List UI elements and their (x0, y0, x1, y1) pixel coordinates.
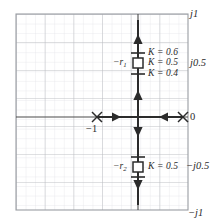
root-label-r2-sub: 2 (123, 165, 127, 172)
root-label-r1-sub: 1 (123, 61, 127, 68)
root-label-r2: −r2 (113, 162, 127, 172)
real-axis-label-minus-one: −1 (86, 124, 97, 135)
root-marker-r2 (133, 162, 143, 172)
root-label-r1: −r1 (113, 58, 127, 68)
gain-label-upper-0p5: K = 0.5 (148, 58, 178, 68)
root-label-r1-name: −r (113, 57, 123, 67)
imag-axis-label-j1: j1 (190, 9, 198, 20)
root-label-r2-name: −r (113, 161, 123, 171)
imag-axis-label-neg-j0p5: −j0.5 (186, 161, 209, 172)
gain-label-upper-0p4: K = 0.4 (148, 69, 178, 79)
imag-axis-label-j0p5: j0.5 (190, 58, 206, 69)
imag-axis-label-neg-j1: −j1 (188, 208, 203, 219)
gain-label-lower-0p5: K = 0.5 (148, 162, 178, 172)
root-marker-r1 (133, 58, 143, 68)
imag-axis-label-zero: 0 (190, 112, 195, 123)
